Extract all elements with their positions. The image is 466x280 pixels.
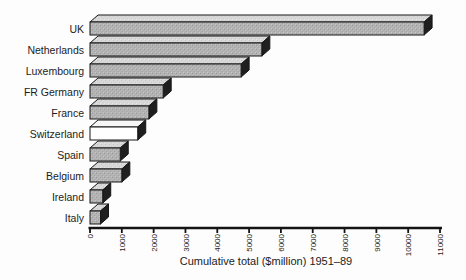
category-label-belgium: Belgium xyxy=(46,170,84,182)
category-label-ireland: Ireland xyxy=(52,191,84,203)
bar-front-face xyxy=(90,43,262,56)
bar-front-face xyxy=(90,169,122,182)
bar-belgium: Belgium xyxy=(46,162,130,182)
bar-front-face xyxy=(90,148,120,161)
x-tick-label-5000: 5000 xyxy=(245,233,254,251)
bar-italy: Italy xyxy=(65,204,109,224)
bar-front-face xyxy=(90,85,163,98)
x-tick-label-9000: 9000 xyxy=(373,233,382,251)
bar-top-face xyxy=(90,99,157,106)
category-label-switzerland: Switzerland xyxy=(30,128,84,140)
bar-front-face xyxy=(90,106,149,119)
x-tick-label-8000: 8000 xyxy=(341,233,350,251)
bar-front-face xyxy=(90,22,424,35)
bar-spain: Spain xyxy=(57,141,128,161)
bar-fr-germany: FR Germany xyxy=(24,78,171,98)
bar-chart: UKNetherlandsLuxembourgFR GermanyFranceS… xyxy=(0,0,466,280)
x-tick-label-0: 0 xyxy=(86,233,95,238)
x-tick-label-2000: 2000 xyxy=(150,233,159,251)
bar-netherlands: Netherlands xyxy=(27,36,269,56)
x-tick-label-10000: 10000 xyxy=(404,233,413,256)
bar-top-face xyxy=(90,36,270,43)
bar-france: France xyxy=(51,99,157,119)
x-tick-label-7000: 7000 xyxy=(309,233,318,251)
bar-uk: UK xyxy=(69,15,432,35)
bar-ireland: Ireland xyxy=(52,183,111,203)
bar-top-face xyxy=(90,57,249,64)
bars-group: UKNetherlandsLuxembourgFR GermanyFranceS… xyxy=(24,15,432,224)
category-label-france: France xyxy=(51,107,84,119)
bar-front-face xyxy=(90,211,101,224)
bar-front-face xyxy=(90,127,138,140)
x-tick-label-6000: 6000 xyxy=(277,233,286,251)
bar-front-face xyxy=(90,64,241,77)
x-tick-label-4000: 4000 xyxy=(213,233,222,251)
bar-switzerland: Switzerland xyxy=(30,120,146,140)
scanned-bar-chart-figure: UKNetherlandsLuxembourgFR GermanyFranceS… xyxy=(0,0,466,280)
bar-top-face xyxy=(90,78,171,85)
bar-top-face xyxy=(90,120,146,127)
x-axis: 0100020003000400050006000700080009000100… xyxy=(86,228,445,256)
category-label-spain: Spain xyxy=(57,149,84,161)
x-tick-label-1000: 1000 xyxy=(118,233,127,251)
category-label-italy: Italy xyxy=(65,212,85,224)
category-label-luxembourg: Luxembourg xyxy=(26,65,85,77)
bar-luxembourg: Luxembourg xyxy=(26,57,250,77)
x-tick-label-3000: 3000 xyxy=(182,233,191,251)
x-axis-title: Cumulative total ($million) 1951–89 xyxy=(180,255,352,267)
category-label-fr-germany: FR Germany xyxy=(24,86,85,98)
category-label-uk: UK xyxy=(69,23,84,35)
x-tick-label-11000: 11000 xyxy=(436,233,445,255)
bar-front-face xyxy=(90,190,103,203)
bar-top-face xyxy=(90,15,432,22)
category-label-netherlands: Netherlands xyxy=(27,44,84,56)
